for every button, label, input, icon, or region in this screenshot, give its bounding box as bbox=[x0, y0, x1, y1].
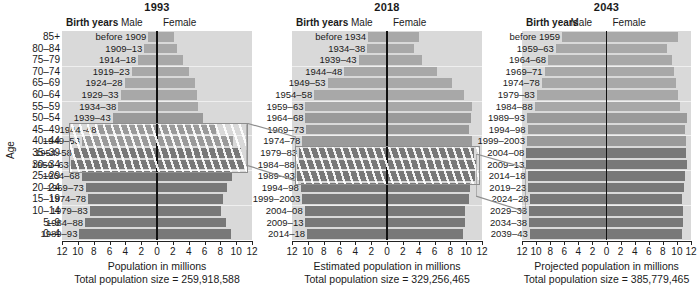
x-tick-label: 6 bbox=[427, 246, 443, 257]
x-tick-label: 0 bbox=[149, 246, 165, 257]
birth-year-label: 1934–38 bbox=[287, 43, 365, 55]
female-bar bbox=[157, 55, 183, 65]
male-bar bbox=[82, 136, 157, 146]
birth-year-label: 1959–63 bbox=[476, 43, 554, 55]
x-axis-tick bbox=[236, 241, 237, 245]
x-tick-label: 10 bbox=[300, 246, 316, 257]
male-bar bbox=[367, 44, 387, 54]
birth-year-label: 1989–93 bbox=[217, 170, 295, 182]
birth-year-label: 1934–38 bbox=[38, 101, 116, 113]
male-bar bbox=[529, 218, 606, 228]
male-bar bbox=[302, 136, 387, 146]
x-tick-label: 2 bbox=[165, 246, 181, 257]
female-bar bbox=[607, 160, 688, 170]
x-tick-label: 12 bbox=[474, 246, 490, 257]
x-tick-label: 8 bbox=[442, 246, 458, 257]
female-bar bbox=[387, 44, 414, 54]
panel-title: 2043 bbox=[522, 1, 691, 13]
birth-year-label: 1924–28 bbox=[45, 77, 123, 89]
birth-year-label: 1914–18 bbox=[58, 54, 136, 66]
male-bar bbox=[98, 125, 157, 135]
female-bar bbox=[607, 78, 676, 88]
x-axis-tick bbox=[635, 241, 636, 245]
x-axis-tick bbox=[62, 241, 63, 245]
male-bar bbox=[118, 102, 157, 112]
panel-title: 1993 bbox=[62, 1, 252, 13]
male-bar bbox=[74, 148, 157, 158]
age-label: 80–84 bbox=[14, 43, 60, 55]
female-bar bbox=[607, 102, 680, 112]
female-bar bbox=[157, 102, 198, 112]
male-bar bbox=[125, 78, 157, 88]
birth-year-label: 1999–2003 bbox=[447, 135, 525, 147]
male-bar bbox=[307, 229, 387, 239]
birth-year-label: 1969–73 bbox=[226, 124, 304, 136]
male-bar bbox=[548, 55, 606, 65]
x-tick-label: 10 bbox=[228, 246, 244, 257]
female-bar bbox=[157, 125, 216, 135]
female-bar bbox=[607, 67, 675, 77]
x-axis-tick bbox=[564, 241, 565, 245]
x-axis-tick bbox=[371, 241, 372, 245]
male-bar bbox=[368, 32, 387, 42]
female-bar bbox=[157, 44, 177, 54]
x-tick-label: 10 bbox=[70, 246, 86, 257]
female-bar bbox=[607, 32, 678, 42]
birth-year-label: 1979–83 bbox=[457, 89, 535, 101]
x-tick-label: 2 bbox=[133, 246, 149, 257]
panel-header: Birth yearsMaleFemale bbox=[62, 17, 252, 30]
female-bar bbox=[607, 90, 679, 100]
x-tick-label: 6 bbox=[102, 246, 118, 257]
birth-year-label: 2034–38 bbox=[449, 217, 527, 229]
center-axis-line bbox=[156, 31, 157, 240]
x-axis-tick bbox=[110, 241, 111, 245]
male-bar bbox=[90, 206, 157, 216]
x-axis-tick bbox=[205, 241, 206, 245]
male-bar bbox=[138, 55, 157, 65]
male-bar bbox=[132, 67, 157, 77]
x-tick-label: 8 bbox=[86, 246, 102, 257]
female-bar bbox=[607, 113, 687, 123]
x-axis-tick bbox=[252, 241, 253, 245]
birth-year-label: 2009–13 bbox=[225, 217, 303, 229]
birth-year-label: 1919–23 bbox=[52, 66, 130, 78]
x-axis-caption: Population in millions bbox=[62, 260, 252, 272]
x-tick-label: 12 bbox=[54, 246, 70, 257]
birth-year-label: 1964–68 bbox=[225, 112, 303, 124]
male-bar bbox=[113, 113, 157, 123]
male-bar bbox=[545, 67, 607, 77]
female-bar bbox=[607, 194, 682, 204]
male-bar bbox=[528, 171, 607, 181]
x-axis-tick bbox=[173, 241, 174, 245]
female-bar bbox=[607, 125, 686, 135]
male-bar bbox=[529, 206, 606, 216]
x-tick-label: 8 bbox=[212, 246, 228, 257]
x-tick-label: 0 bbox=[379, 246, 395, 257]
x-tick-label: 8 bbox=[316, 246, 332, 257]
male-bar bbox=[302, 194, 387, 204]
x-axis-tick bbox=[536, 241, 537, 245]
male-bar bbox=[297, 171, 387, 181]
birth-year-label: 1949–53 bbox=[2, 135, 80, 147]
male-legend-label: Male bbox=[121, 17, 143, 28]
male-bar bbox=[527, 136, 607, 146]
x-tick-label: 10 bbox=[458, 246, 474, 257]
female-bar bbox=[607, 148, 687, 158]
birth-year-label: 1949–53 bbox=[248, 77, 326, 89]
x-axis-tick bbox=[324, 241, 325, 245]
x-axis-line bbox=[62, 241, 252, 242]
age-label: 85+ bbox=[14, 31, 60, 43]
panel-title: 2018 bbox=[292, 1, 482, 13]
male-bar bbox=[314, 90, 387, 100]
male-bar bbox=[556, 44, 607, 54]
x-axis-tick bbox=[621, 241, 622, 245]
x-axis-tick bbox=[220, 241, 221, 245]
male-bar bbox=[71, 160, 157, 170]
birth-years-header: Birth years bbox=[296, 17, 348, 28]
male-bar bbox=[144, 44, 157, 54]
birth-year-label: 1954–58 bbox=[0, 147, 72, 159]
birth-year-label: 1909–13 bbox=[64, 43, 142, 55]
female-bar bbox=[157, 194, 223, 204]
x-axis-tick bbox=[550, 241, 551, 245]
male-legend-label: Male bbox=[571, 17, 593, 28]
